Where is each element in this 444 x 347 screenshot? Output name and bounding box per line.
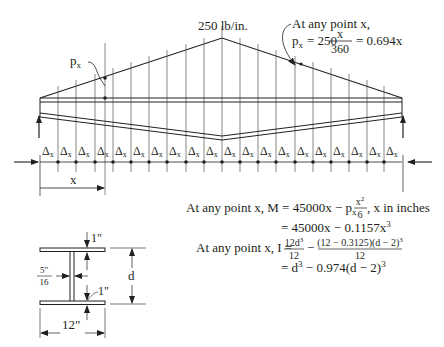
svg-text:Δx: Δx bbox=[78, 144, 90, 159]
flange-top-thickness: 1" bbox=[91, 231, 102, 245]
segment-labels: Δx Δx Δx Δx Δx Δx Δx Δx Δx Δx Δx Δx Δx Δ… bbox=[42, 144, 398, 159]
svg-text:Δx: Δx bbox=[206, 144, 218, 159]
svg-text:Δx: Δx bbox=[224, 144, 236, 159]
beam-diagram: px 250 lb/in. At any point x, px= 250 x … bbox=[0, 0, 444, 347]
svg-text:Δx: Δx bbox=[115, 144, 127, 159]
beam-top-flange bbox=[40, 98, 402, 102]
web-thickness-num: 5" bbox=[40, 265, 49, 275]
svg-text:12d3: 12d3 bbox=[285, 236, 304, 248]
moment-line1: At any point x, M = 45000x − px bbox=[186, 200, 357, 217]
svg-text:Δx: Δx bbox=[169, 144, 181, 159]
annotation-line1: At any point x, bbox=[292, 16, 370, 31]
svg-text:Δx: Δx bbox=[42, 144, 54, 159]
px-dot-top bbox=[103, 76, 107, 80]
svg-text:Δx: Δx bbox=[369, 144, 381, 159]
svg-text:−: − bbox=[307, 240, 314, 255]
svg-text:Δx: Δx bbox=[133, 144, 145, 159]
depth-label: d bbox=[128, 268, 135, 283]
svg-text:Δx: Δx bbox=[260, 144, 272, 159]
annotation-result: = 0.694x bbox=[356, 33, 403, 48]
moment-units: , x in inches bbox=[367, 200, 430, 215]
svg-text:Δx: Δx bbox=[297, 144, 309, 159]
annotation-frac-den: 360 bbox=[331, 42, 349, 56]
svg-text:Δx: Δx bbox=[278, 144, 290, 159]
px-label: px bbox=[70, 53, 82, 70]
svg-text:x2: x2 bbox=[356, 195, 365, 207]
load-label: 250 lb/in. bbox=[198, 18, 248, 33]
x-dimension-label: x bbox=[70, 172, 77, 187]
flange-bottom-thickness: 1" bbox=[98, 284, 109, 298]
svg-text:(12 − 0.3125)(d − 2)3: (12 − 0.3125)(d − 2)3 bbox=[317, 236, 403, 249]
svg-text:Δx: Δx bbox=[60, 144, 72, 159]
svg-text:Δx: Δx bbox=[386, 144, 398, 159]
beam-bottom-haunch bbox=[40, 98, 402, 140]
svg-text:Δx: Δx bbox=[315, 144, 327, 159]
inertia-line2: = d3 − 0.974(d − 2)3 bbox=[281, 259, 386, 275]
px-leader bbox=[88, 62, 105, 86]
px-dot-flange bbox=[103, 96, 107, 100]
svg-text:6: 6 bbox=[358, 209, 363, 220]
moment-line2: = 45000x − 0.1157x3 bbox=[281, 219, 391, 235]
inertia-line1: At any point x, I = bbox=[196, 240, 292, 255]
annotation-frac-num: x bbox=[337, 27, 343, 41]
svg-text:Δx: Δx bbox=[333, 144, 345, 159]
svg-text:Δx: Δx bbox=[242, 144, 254, 159]
svg-text:Δx: Δx bbox=[351, 144, 363, 159]
svg-text:Δx: Δx bbox=[188, 144, 200, 159]
width-label: 12" bbox=[62, 317, 80, 332]
svg-text:Δx: Δx bbox=[151, 144, 163, 159]
svg-text:Δx: Δx bbox=[97, 144, 109, 159]
web-thickness-den: 16 bbox=[40, 277, 50, 287]
